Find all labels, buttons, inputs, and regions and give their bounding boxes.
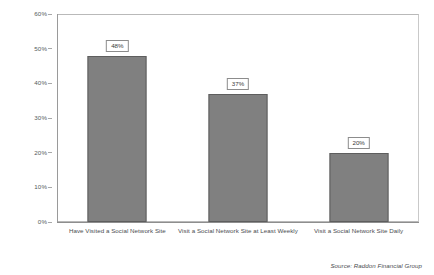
y-axis-tick: 40%: [0, 78, 57, 88]
bar-slot: 48%: [57, 14, 178, 222]
bars-layer: 48%37%20%: [57, 14, 419, 222]
x-axis-category-label: Visit a Social Network Site Daily: [284, 226, 434, 235]
y-axis-tick-mark: [48, 118, 52, 119]
y-axis-tick: 60%: [0, 9, 57, 19]
bar: [329, 153, 388, 222]
y-axis-tick-mark: [48, 14, 52, 15]
y-axis-tick-label: 60%: [34, 9, 47, 19]
bar-value-label: 37%: [227, 78, 249, 90]
x-axis-line: [57, 222, 419, 223]
y-axis-tick-mark: [48, 48, 52, 49]
y-axis-tick-label: 30%: [34, 113, 47, 123]
bar-chart: 0%10%20%30%40%50%60% 48%37%20% Have Visi…: [0, 0, 434, 275]
y-axis-tick: 50%: [0, 44, 57, 54]
y-axis-tick-mark: [48, 152, 52, 153]
y-axis-tick-label: 20%: [34, 148, 47, 158]
source-note: Source: Raddon Financial Group: [330, 262, 422, 269]
y-axis-tick: 20%: [0, 148, 57, 158]
y-axis-tick: 10%: [0, 182, 57, 192]
bar-slot: 37%: [178, 14, 299, 222]
bar-value-label: 20%: [347, 137, 369, 149]
y-axis-tick-label: 40%: [34, 78, 47, 88]
y-axis-tick-label: 50%: [34, 44, 47, 54]
y-axis-tick-label: 10%: [34, 182, 47, 192]
bar: [88, 56, 147, 222]
x-axis-category-labels: Have Visited a Social Network SiteVisit …: [57, 226, 419, 240]
y-axis-tick: 30%: [0, 113, 57, 123]
y-axis-tick-mark: [48, 222, 52, 223]
y-axis-tick-mark: [48, 83, 52, 84]
bar-value-label: 48%: [106, 40, 128, 52]
y-axis-tick-mark: [48, 187, 52, 188]
bar-slot: 20%: [298, 14, 419, 222]
bar: [208, 94, 267, 222]
